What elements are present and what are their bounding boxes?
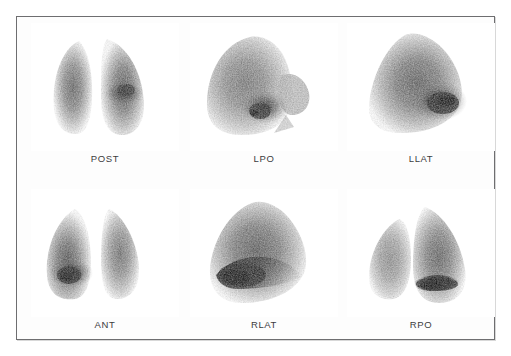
scan-view-rlat[interactable]: RLAT [190,189,338,349]
scan-label-lpo: LPO [190,153,338,164]
scan-label-rpo: RPO [347,319,495,330]
scan-label-llat: LLAT [347,153,495,164]
scintigram-image-llat [347,23,495,151]
scan-panel-frame: POST [16,16,495,340]
scintigram-image-ant [31,189,179,317]
scan-view-lpo[interactable]: LPO [190,23,338,183]
scan-view-rpo[interactable]: RPO [347,189,495,349]
scan-view-llat[interactable]: LLAT [347,23,495,183]
scan-label-post: POST [31,153,179,164]
scan-label-rlat: RLAT [190,319,338,330]
scan-sheet: POST [0,0,511,356]
scintigram-image-post [31,23,179,151]
scintigram-image-rlat [190,189,338,317]
scan-grid: POST [17,17,494,339]
scan-label-ant: ANT [31,319,179,330]
scintigram-image-rpo [347,189,495,317]
scintigram-image-lpo [190,23,338,151]
scan-view-post[interactable]: POST [31,23,179,183]
scan-view-ant[interactable]: ANT [31,189,179,349]
